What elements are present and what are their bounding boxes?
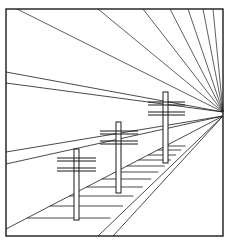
track-or-wire-line xyxy=(6,116,223,164)
telephone-pole-middle xyxy=(100,122,138,193)
perspective-ray xyxy=(143,9,223,112)
line-drawing xyxy=(0,0,231,247)
perspective-ray xyxy=(98,9,223,112)
track-or-wire-line xyxy=(6,116,223,229)
telephone-pole-near xyxy=(57,149,96,220)
wire-line xyxy=(6,83,223,112)
wire-line xyxy=(6,72,223,112)
perspective-ray xyxy=(170,9,223,112)
perspective-ray xyxy=(17,9,223,112)
frame-border xyxy=(6,9,223,236)
perspective-ray xyxy=(203,9,223,112)
illusion-figure xyxy=(0,0,231,247)
